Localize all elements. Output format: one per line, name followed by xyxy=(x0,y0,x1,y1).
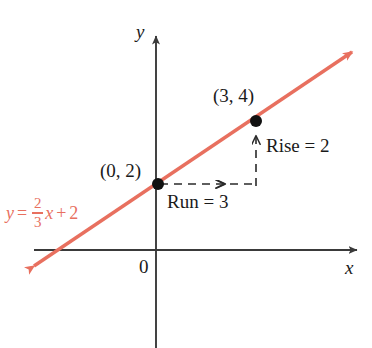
equation-equals-sign: = xyxy=(17,204,27,222)
equation-constant: 2 xyxy=(69,204,78,222)
point-label-0-2: (0, 2) xyxy=(100,161,141,180)
run-label: Run = 3 xyxy=(167,192,228,211)
point-3-4-dot xyxy=(250,115,262,127)
point-0-2-dot xyxy=(152,178,164,190)
fraction-denominator: 3 xyxy=(33,215,43,230)
line-equation-label: y = 2 3 x + 2 xyxy=(6,196,78,230)
equation-variable: x xyxy=(45,204,53,222)
x-axis-label: x xyxy=(345,258,353,277)
function-line xyxy=(34,52,352,266)
equation-fraction: 2 3 xyxy=(32,196,43,230)
equation-plus-sign: + xyxy=(56,204,66,222)
rise-label: Rise = 2 xyxy=(266,136,330,155)
equation-lhs: y xyxy=(6,204,14,222)
origin-label: 0 xyxy=(139,257,149,276)
graph-canvas xyxy=(0,0,372,348)
point-label-3-4: (3, 4) xyxy=(213,86,254,105)
slope-intercept-line-graph: y x 0 (0, 2) (3, 4) Run = 3 Rise = 2 y =… xyxy=(0,0,372,348)
y-axis-label: y xyxy=(136,22,144,41)
fraction-numerator: 2 xyxy=(33,196,43,211)
